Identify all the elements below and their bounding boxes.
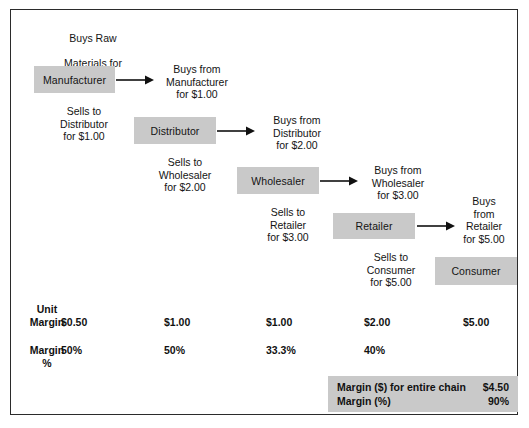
note-sells-to-wholesaler: Sells to Wholesaler for $2.00 bbox=[139, 156, 231, 194]
summary-margin-dollars-label: Margin ($) for entire chain bbox=[337, 381, 466, 395]
summary-margin-percent-value: 90% bbox=[488, 395, 509, 409]
cell-margin-percent-manufacturer: 50% bbox=[61, 344, 82, 357]
node-manufacturer-label: Manufacturer bbox=[43, 74, 106, 86]
node-distributor-label: Distributor bbox=[151, 125, 200, 137]
node-consumer-label: Consumer bbox=[451, 265, 500, 277]
note-sells-to-distributor: Sells to Distributor for $1.00 bbox=[38, 105, 130, 143]
node-wholesaler-label: Wholesaler bbox=[251, 175, 305, 187]
node-distributor[interactable]: Distributor bbox=[134, 117, 216, 144]
chain-summary-box: Margin ($) for entire chain $4.50 Margin… bbox=[328, 376, 518, 412]
node-consumer[interactable]: Consumer bbox=[435, 257, 517, 285]
note-buys-from-retailer: Buys from Retailer for $5.00 bbox=[451, 195, 517, 245]
note-buys-raw-line1: Buys Raw bbox=[69, 32, 116, 44]
summary-row-margin-percent: Margin (%) 90% bbox=[337, 395, 509, 409]
note-buys-from-wholesaler: Buys from Wholesaler for $3.00 bbox=[352, 164, 444, 202]
cell-unit-margin-wholesaler: $1.00 bbox=[266, 316, 292, 329]
cell-margin-percent-wholesaler: 33.3% bbox=[266, 344, 296, 357]
node-retailer-label: Retailer bbox=[356, 220, 393, 232]
cell-unit-margin-manufacturer: $0.50 bbox=[61, 316, 87, 329]
summary-margin-percent-label: Margin (%) bbox=[337, 395, 391, 409]
diagram-canvas: Buys Raw Materials for $0.50 Manufacture… bbox=[0, 0, 529, 428]
cell-unit-margin-distributor: $1.00 bbox=[164, 316, 190, 329]
note-buys-from-manufacturer: Buys from Manufacturer for $1.00 bbox=[151, 63, 243, 101]
cell-unit-margin-retailer: $2.00 bbox=[364, 316, 390, 329]
cell-margin-percent-distributor: 50% bbox=[164, 344, 185, 357]
note-sells-to-retailer: Sells to Retailer for $3.00 bbox=[242, 206, 334, 244]
node-wholesaler[interactable]: Wholesaler bbox=[237, 167, 319, 194]
cell-unit-margin-consumer: $5.00 bbox=[463, 316, 489, 329]
arrow-distributor-to-wholesaler bbox=[217, 125, 255, 137]
summary-margin-dollars-value: $4.50 bbox=[483, 381, 509, 395]
arrow-retailer-to-consumer bbox=[417, 220, 455, 232]
summary-row-margin-dollars: Margin ($) for entire chain $4.50 bbox=[337, 381, 509, 395]
note-buys-from-distributor: Buys from Distributor for $2.00 bbox=[251, 114, 343, 152]
diagram-frame: Buys Raw Materials for $0.50 Manufacture… bbox=[10, 9, 518, 415]
cell-margin-percent-retailer: 40% bbox=[364, 344, 385, 357]
arrow-manufacturer-to-distributor bbox=[116, 74, 154, 86]
node-manufacturer[interactable]: Manufacturer bbox=[34, 66, 115, 93]
node-retailer[interactable]: Retailer bbox=[333, 213, 415, 239]
note-sells-to-consumer: Sells to Consumer for $5.00 bbox=[345, 251, 437, 289]
